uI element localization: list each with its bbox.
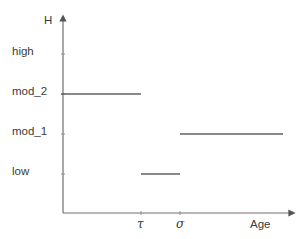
x-tick-label-tau: τ bbox=[137, 217, 144, 231]
y-tick-label-high: high bbox=[12, 45, 34, 57]
x-tick-label-sigma: σ bbox=[176, 217, 185, 231]
y-tick-label-mod-2: mod_2 bbox=[12, 85, 47, 97]
step-chart: H Age high mod_2 mod_1 low τ σ bbox=[0, 0, 306, 239]
y-axis-label: H bbox=[44, 14, 52, 26]
y-tick-label-mod-1: mod_1 bbox=[12, 125, 47, 137]
x-axis-label: Age bbox=[250, 218, 270, 230]
y-tick-label-low: low bbox=[12, 165, 30, 177]
